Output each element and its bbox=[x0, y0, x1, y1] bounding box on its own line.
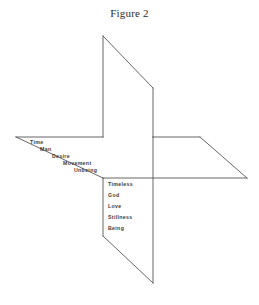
bottom-wing-diagonal-line bbox=[103, 236, 153, 283]
label-timeless: Timeless bbox=[108, 181, 133, 187]
label-movement: Movement bbox=[63, 160, 91, 166]
label-love: Love bbox=[108, 203, 122, 209]
top-wing-diagonal-line bbox=[103, 36, 153, 88]
label-being: Being bbox=[108, 225, 124, 231]
figure-container: Figure 2 Time Man Desire Movement Unbein… bbox=[0, 0, 259, 305]
label-god: God bbox=[108, 192, 119, 198]
label-man: Man bbox=[40, 146, 51, 152]
label-unbeing: Unbeing bbox=[74, 167, 97, 173]
right-wing-diagonal-line bbox=[200, 137, 247, 178]
pinwheel-diagram bbox=[0, 0, 259, 305]
label-stillness: Stillness bbox=[108, 214, 133, 220]
label-desire: Desire bbox=[52, 153, 70, 159]
label-time: Time bbox=[30, 139, 43, 145]
